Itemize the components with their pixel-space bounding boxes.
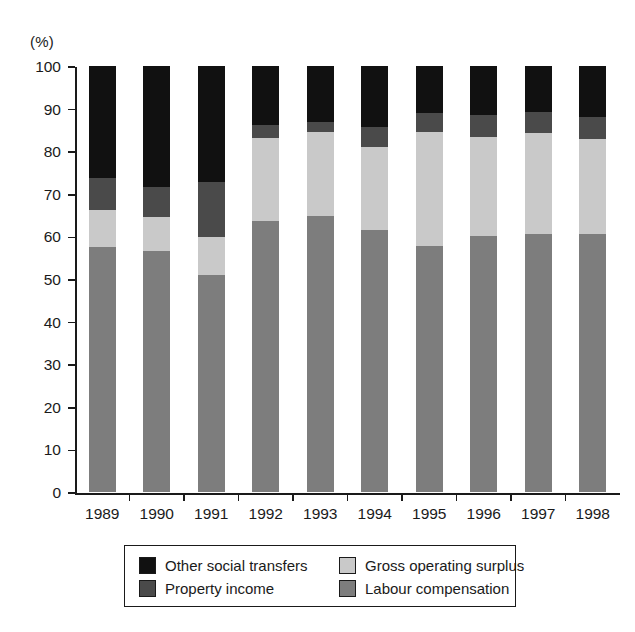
legend-swatch-icon	[339, 557, 356, 574]
legend-item: Property income	[139, 580, 339, 597]
y-tick-50: 50	[68, 279, 75, 281]
legend-item: Labour compensation	[339, 580, 503, 597]
plot-area: 0102030405060708090100 19891990199119921…	[75, 67, 620, 493]
bar-segment	[198, 66, 225, 182]
bar-segment	[307, 66, 334, 122]
x-axis-label-1989: 1989	[85, 505, 119, 523]
bar-1996	[470, 66, 497, 492]
y-tick-70: 70	[68, 194, 75, 196]
x-tick	[183, 493, 185, 501]
y-tick-label: 60	[44, 228, 61, 246]
x-tick	[238, 493, 240, 501]
bar-segment	[579, 117, 606, 139]
y-tick-label: 80	[44, 143, 61, 161]
bar-segment	[525, 133, 552, 234]
x-axis-label-1993: 1993	[303, 505, 337, 523]
x-tick	[129, 493, 131, 501]
bar-segment	[89, 66, 116, 178]
x-tick	[456, 493, 458, 501]
y-tick-20: 20	[68, 407, 75, 409]
bar-1992	[252, 66, 279, 492]
bar-segment	[198, 237, 225, 275]
bar-1993	[307, 66, 334, 492]
bar-segment	[89, 210, 116, 247]
y-tick-label: 50	[44, 271, 61, 289]
bar-segment	[470, 66, 497, 115]
bar-segment	[579, 139, 606, 234]
y-tick-80: 80	[68, 151, 75, 153]
bar-segment	[307, 132, 334, 216]
bar-segment	[143, 66, 170, 187]
y-tick-60: 60	[68, 237, 75, 239]
bar-segment	[525, 66, 552, 112]
bar-segment	[252, 221, 279, 492]
bar-segment	[361, 127, 388, 147]
y-tick-label: 40	[44, 314, 61, 332]
x-tick	[510, 493, 512, 501]
x-axis-label-1996: 1996	[467, 505, 501, 523]
bar-segment	[143, 251, 170, 492]
bar-segment	[416, 66, 443, 113]
legend-label: Property income	[165, 580, 274, 597]
y-tick-label: 10	[44, 441, 61, 459]
bar-segment	[525, 112, 552, 133]
x-axis-label-1997: 1997	[521, 505, 555, 523]
bar-segment	[252, 66, 279, 125]
y-axis-line	[75, 67, 77, 494]
bar-segment	[361, 147, 388, 230]
bar-segment	[416, 246, 443, 492]
y-tick-0: 0	[68, 492, 75, 494]
bar-1989	[89, 66, 116, 492]
legend-label: Gross operating surplus	[365, 557, 524, 574]
x-axis-label-1991: 1991	[194, 505, 228, 523]
x-tick	[401, 493, 403, 501]
bar-segment	[307, 122, 334, 132]
bar-1995	[416, 66, 443, 492]
y-tick-label: 20	[44, 399, 61, 417]
x-tick	[565, 493, 567, 501]
x-axis-label-1990: 1990	[140, 505, 174, 523]
bar-1998	[579, 66, 606, 492]
bar-segment	[470, 236, 497, 492]
y-tick-label: 100	[35, 58, 61, 76]
x-tick	[347, 493, 349, 501]
bar-segment	[198, 275, 225, 492]
legend-item: Gross operating surplus	[339, 557, 503, 574]
stacked-bar-chart: (%) 0102030405060708090100 1989199019911…	[0, 0, 635, 632]
y-tick-label: 70	[44, 186, 61, 204]
y-tick-90: 90	[68, 109, 75, 111]
bar-1990	[143, 66, 170, 492]
bar-segment	[525, 234, 552, 492]
legend-label: Other social transfers	[165, 557, 308, 574]
bar-segment	[470, 115, 497, 137]
y-tick-label: 30	[44, 356, 61, 374]
bar-segment	[579, 66, 606, 117]
bar-1997	[525, 66, 552, 492]
y-axis-unit-label: (%)	[30, 33, 54, 50]
bar-segment	[416, 132, 443, 246]
x-axis-label-1998: 1998	[576, 505, 610, 523]
legend-swatch-icon	[139, 557, 156, 574]
bar-1994	[361, 66, 388, 492]
bar-segment	[89, 247, 116, 492]
bar-1991	[198, 66, 225, 492]
legend-swatch-icon	[339, 580, 356, 597]
x-axis-label-1992: 1992	[249, 505, 283, 523]
x-tick	[292, 493, 294, 501]
legend-item: Other social transfers	[139, 557, 339, 574]
y-tick-label: 0	[52, 484, 61, 502]
bar-segment	[198, 182, 225, 237]
y-tick-40: 40	[68, 322, 75, 324]
x-axis-label-1995: 1995	[412, 505, 446, 523]
bar-segment	[416, 113, 443, 132]
legend-label: Labour compensation	[365, 580, 509, 597]
y-tick-100: 100	[68, 66, 75, 68]
bar-segment	[89, 178, 116, 210]
bar-segment	[470, 137, 497, 236]
bar-segment	[252, 125, 279, 139]
bar-segment	[307, 216, 334, 492]
y-tick-label: 90	[44, 101, 61, 119]
y-tick-10: 10	[68, 450, 75, 452]
bar-segment	[143, 217, 170, 252]
bar-segment	[361, 230, 388, 492]
